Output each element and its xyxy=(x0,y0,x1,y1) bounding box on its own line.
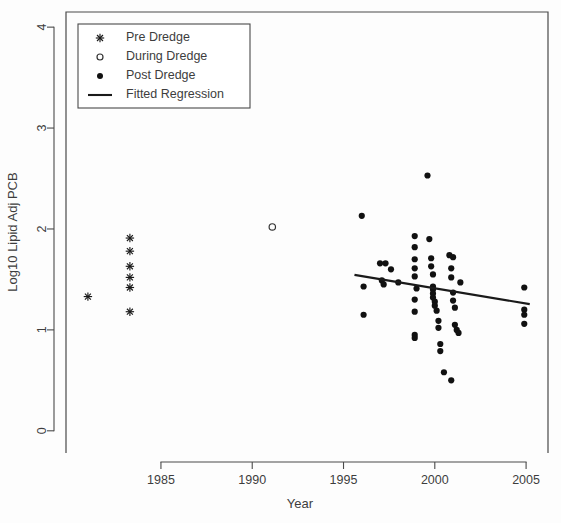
data-point-post-dredge xyxy=(412,256,418,262)
data-point-post-dredge xyxy=(412,335,418,341)
y-axis-tick-label: 4 xyxy=(36,24,50,31)
legend-label: Pre Dredge xyxy=(126,30,190,44)
series-during-dredge xyxy=(269,224,275,230)
scatter-plot: 19851990199520002005 01234 Pre DredgeDur… xyxy=(0,0,561,523)
regression-line xyxy=(354,275,529,304)
data-point-post-dredge xyxy=(430,271,436,277)
x-axis-tick-label: 2000 xyxy=(421,473,449,487)
x-axis-title: Year xyxy=(287,496,314,511)
chart-legend: Pre DredgeDuring DredgePost DredgeFitted… xyxy=(78,24,250,108)
data-point-post-dredge xyxy=(450,254,456,260)
series-post-dredge xyxy=(359,172,528,383)
x-axis-tick-label: 2005 xyxy=(512,473,540,487)
x-axis-tick-label: 1990 xyxy=(238,473,266,487)
data-point-post-dredge xyxy=(426,236,432,242)
legend-label: During Dredge xyxy=(126,49,207,63)
data-point-post-dredge xyxy=(455,330,461,336)
data-point-post-dredge xyxy=(521,321,527,327)
data-point-post-dredge xyxy=(382,260,388,266)
data-point-post-dredge xyxy=(412,265,418,271)
data-point-during-dredge xyxy=(269,224,275,230)
fitted-regression-line xyxy=(354,275,529,304)
data-point-post-dredge xyxy=(435,325,441,331)
data-point-post-dredge xyxy=(450,298,456,304)
y-axis-tick-label: 3 xyxy=(36,125,50,132)
x-axis-tick-label: 1985 xyxy=(147,473,175,487)
data-point-post-dredge xyxy=(388,266,394,272)
data-point-post-dredge xyxy=(412,309,418,315)
data-point-post-dredge xyxy=(359,213,365,219)
data-point-post-dredge xyxy=(434,308,440,314)
data-point-post-dredge xyxy=(437,341,443,347)
chart-figure: 19851990199520002005 01234 Pre DredgeDur… xyxy=(0,0,561,523)
data-point-post-dredge xyxy=(412,297,418,303)
data-point-post-dredge xyxy=(412,244,418,250)
y-axis: 01234 xyxy=(36,24,55,435)
data-points-layer xyxy=(84,172,528,383)
data-point-post-dredge xyxy=(521,312,527,318)
data-point-post-dredge xyxy=(377,260,383,266)
data-point-post-dredge xyxy=(441,369,447,375)
x-axis-tick-label: 1995 xyxy=(330,473,358,487)
y-axis-tick-label: 2 xyxy=(36,225,50,232)
data-point-post-dredge xyxy=(381,281,387,287)
x-axis: 19851990199520002005 xyxy=(147,462,540,487)
data-point-post-dredge xyxy=(437,348,443,354)
data-point-post-dredge xyxy=(428,263,434,269)
data-point-post-dredge xyxy=(448,265,454,271)
data-point-post-dredge xyxy=(360,312,366,318)
data-point-post-dredge xyxy=(435,318,441,324)
data-point-post-dredge xyxy=(457,279,463,285)
data-point-post-dredge xyxy=(424,172,430,178)
data-point-post-dredge xyxy=(360,283,366,289)
data-point-post-dredge xyxy=(452,305,458,311)
data-point-post-dredge xyxy=(448,274,454,280)
y-axis-title: Log10 Lipid Adj PCB xyxy=(5,172,20,291)
legend-marker-post-dredge xyxy=(97,73,103,79)
data-point-post-dredge xyxy=(412,233,418,239)
legend-label: Post Dredge xyxy=(126,68,196,82)
y-axis-tick-label: 0 xyxy=(36,427,50,434)
series-pre-dredge xyxy=(84,234,134,316)
y-axis-tick-label: 1 xyxy=(36,326,50,333)
legend-label: Fitted Regression xyxy=(126,87,224,101)
data-point-post-dredge xyxy=(412,273,418,279)
data-point-post-dredge xyxy=(521,284,527,290)
data-point-post-dredge xyxy=(448,377,454,383)
data-point-post-dredge xyxy=(428,255,434,261)
